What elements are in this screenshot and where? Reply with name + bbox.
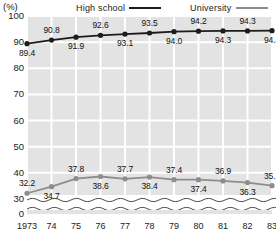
x-tick-77: 77 — [120, 221, 130, 231]
x-tick-82: 82 — [242, 221, 252, 231]
value-label-hs-81: 94.3 — [215, 35, 231, 45]
value-label-hs-83: 94.4 — [264, 35, 276, 45]
value-label-uni-80: 37.4 — [190, 184, 206, 194]
y-tick-70: 70 — [0, 88, 24, 99]
y-tick-60: 60 — [0, 115, 24, 126]
value-label-hs-79: 94.0 — [166, 36, 182, 46]
x-tick-79: 79 — [169, 221, 179, 231]
value-label-uni-83: 35.1 — [264, 171, 276, 181]
y-tick-80: 80 — [0, 62, 24, 73]
value-label-uni-79: 37.4 — [166, 165, 182, 175]
value-label-uni-75: 37.8 — [68, 164, 84, 174]
value-label-uni-76: 38.6 — [92, 181, 108, 191]
x-tick-78: 78 — [144, 221, 154, 231]
x-tick-76: 76 — [95, 221, 105, 231]
y-tick-40: 40 — [0, 167, 24, 178]
value-label-hs-78: 93.5 — [141, 18, 157, 28]
y-tick-0: 0 — [0, 208, 24, 219]
x-tick-74: 74 — [46, 221, 56, 231]
x-tick-81: 81 — [218, 221, 228, 231]
value-label-hs-1973: 89.4 — [19, 48, 35, 58]
value-label-uni-78: 38.4 — [141, 181, 157, 191]
value-label-uni-77: 37.7 — [117, 164, 133, 174]
value-label-hs-74: 90.8 — [43, 25, 59, 35]
y-tick-100: 100 — [0, 10, 24, 21]
value-label-hs-82: 94.3 — [239, 16, 255, 26]
value-label-uni-1973: 32.2 — [19, 178, 35, 188]
x-tick-1973: 1973 — [17, 221, 37, 231]
y-tick-90: 90 — [0, 36, 24, 47]
x-tick-80: 80 — [193, 221, 203, 231]
y-tick-50: 50 — [0, 141, 24, 152]
value-label-uni-81: 36.9 — [215, 166, 231, 176]
chart-root: High school University (%) 0304050607080… — [0, 0, 276, 235]
y-tick-30: 30 — [0, 193, 24, 204]
value-label-hs-77: 93.1 — [117, 38, 133, 48]
value-label-hs-80: 94.2 — [190, 16, 206, 26]
value-label-uni-82: 36.3 — [239, 187, 255, 197]
value-label-uni-74: 34.7 — [43, 191, 59, 201]
x-tick-75: 75 — [71, 221, 81, 231]
value-label-hs-75: 91.9 — [68, 41, 84, 51]
value-label-hs-76: 92.6 — [92, 20, 108, 30]
x-tick-83: 83 — [267, 221, 276, 231]
plot-area — [0, 0, 276, 235]
